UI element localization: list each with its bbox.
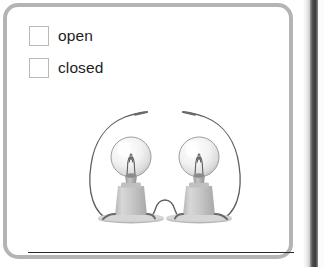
left-wire-tip: [135, 112, 147, 115]
left-bulb-highlight: [118, 141, 131, 157]
worksheet-page: open closed: [0, 0, 324, 267]
right-bulb-highlight: [186, 141, 199, 157]
left-socket-collar: [121, 183, 141, 188]
option-row-closed[interactable]: closed: [29, 55, 103, 81]
right-bulb-glass: [179, 137, 219, 177]
option-label-closed: closed: [58, 60, 103, 76]
page-edge-dark-strip: [310, 0, 318, 267]
option-label-open: open: [58, 28, 93, 44]
right-bulb-stem: [194, 173, 205, 177]
left-socket: [115, 186, 147, 215]
page-gutter-shadow: [303, 0, 310, 267]
right-socket: [183, 186, 215, 215]
left-bulb-stem: [126, 173, 137, 177]
question-box: open closed: [3, 3, 293, 259]
page-edge-light-strip: [318, 0, 324, 267]
checkbox-closed[interactable]: [29, 58, 49, 78]
right-bulb-assembly: [166, 137, 232, 223]
checkbox-open[interactable]: [29, 26, 49, 46]
left-bulb-assembly: [98, 137, 164, 223]
answer-options-group: open closed: [29, 23, 103, 87]
right-wire-tip: [183, 112, 195, 115]
circuit-illustration: [85, 99, 245, 224]
right-socket-collar: [189, 183, 209, 188]
left-bulb-glass: [111, 137, 151, 177]
option-row-open[interactable]: open: [29, 23, 103, 49]
answer-line: [28, 252, 294, 253]
